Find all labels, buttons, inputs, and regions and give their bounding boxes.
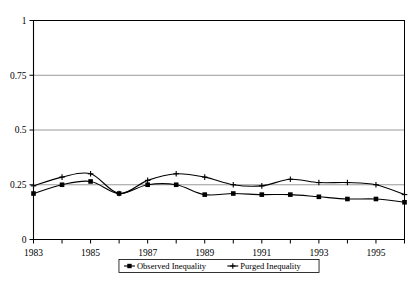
x-tick-label: 1993 <box>309 248 328 258</box>
gridlines-group <box>34 75 405 185</box>
data-point-marker <box>345 197 350 202</box>
y-tick-label: 0.75 <box>10 71 27 81</box>
y-tick-label: 0.5 <box>15 125 27 135</box>
x-tick-label: 1989 <box>195 248 214 258</box>
x-tick-label: 1985 <box>81 248 100 258</box>
legend-marker-square <box>127 264 131 268</box>
x-tick-label: 1995 <box>366 248 385 258</box>
inequality-line-chart: 00.250.50.751 19831985198719891991199319… <box>0 0 420 285</box>
y-axis-tick-labels: 00.250.50.751 <box>10 16 27 245</box>
series-layer <box>31 171 408 205</box>
x-tick-label: 1987 <box>138 248 157 258</box>
data-point-marker <box>317 195 322 200</box>
x-tick-label: 1991 <box>252 248 271 258</box>
legend-item-label: Observed Inequality <box>137 261 207 271</box>
data-point-marker <box>31 191 36 196</box>
chart-legend: Observed InequalityPurged Inequality <box>119 260 319 273</box>
data-point-marker <box>88 179 93 184</box>
data-point-marker <box>402 200 407 205</box>
data-point-marker <box>288 192 293 197</box>
data-point-marker <box>60 182 65 187</box>
y-tick-label: 1 <box>22 16 27 26</box>
x-tick-label: 1983 <box>24 248 43 258</box>
x-axis-ticks <box>34 240 405 244</box>
data-point-marker <box>374 197 379 202</box>
x-axis-tick-labels: 1983198519871989199119931995 <box>24 248 386 258</box>
data-point-marker <box>231 191 236 196</box>
data-point-marker <box>202 192 207 197</box>
data-point-marker <box>174 182 179 187</box>
y-axis-ticks <box>30 21 34 240</box>
series-2 <box>31 171 408 197</box>
data-point-marker <box>260 192 265 197</box>
y-tick-label: 0 <box>22 235 27 245</box>
legend-item-1[interactable]: Observed Inequality <box>124 261 207 271</box>
legend-item-label: Purged Inequality <box>240 261 301 271</box>
chart-container: 00.250.50.751 19831985198719891991199319… <box>0 0 420 285</box>
y-tick-label: 0.25 <box>10 180 27 190</box>
